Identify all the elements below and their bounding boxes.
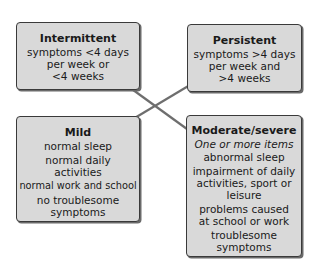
moderate-subtitle: One or more items xyxy=(187,138,301,150)
moderate-item: abnormal sleep xyxy=(187,151,301,163)
persistent-box: Persistent symptoms >4 days per week and… xyxy=(187,24,302,92)
mild-item: normal daily activities xyxy=(17,154,139,178)
mild-title: Mild xyxy=(17,126,139,139)
moderate-title: Moderate/severe xyxy=(187,124,301,137)
mild-item: no troublesome symptoms xyxy=(17,194,139,218)
persistent-title: Persistent xyxy=(188,34,301,47)
moderate-item: problems caused at school or work xyxy=(187,203,301,227)
persistent-line: >4 weeks xyxy=(188,72,301,84)
intermittent-line: per week or xyxy=(17,58,139,70)
mild-item: normal work and school xyxy=(17,180,139,192)
intermittent-line: symptoms <4 days xyxy=(17,46,139,58)
intermittent-title: Intermittent xyxy=(17,32,139,45)
moderate-severe-box: Moderate/severe One or more items abnorm… xyxy=(186,115,302,257)
persistent-line: symptoms >4 days xyxy=(188,48,301,60)
mild-box: Mild normal sleep normal daily activitie… xyxy=(16,116,140,222)
intermittent-line: <4 weeks xyxy=(17,70,139,82)
moderate-item: troublesome symptoms xyxy=(187,229,301,253)
moderate-item: impairment of daily activities, sport or… xyxy=(187,165,301,201)
persistent-line: per week and xyxy=(188,60,301,72)
intermittent-box: Intermittent symptoms <4 days per week o… xyxy=(16,22,140,90)
mild-item: normal sleep xyxy=(17,140,139,152)
